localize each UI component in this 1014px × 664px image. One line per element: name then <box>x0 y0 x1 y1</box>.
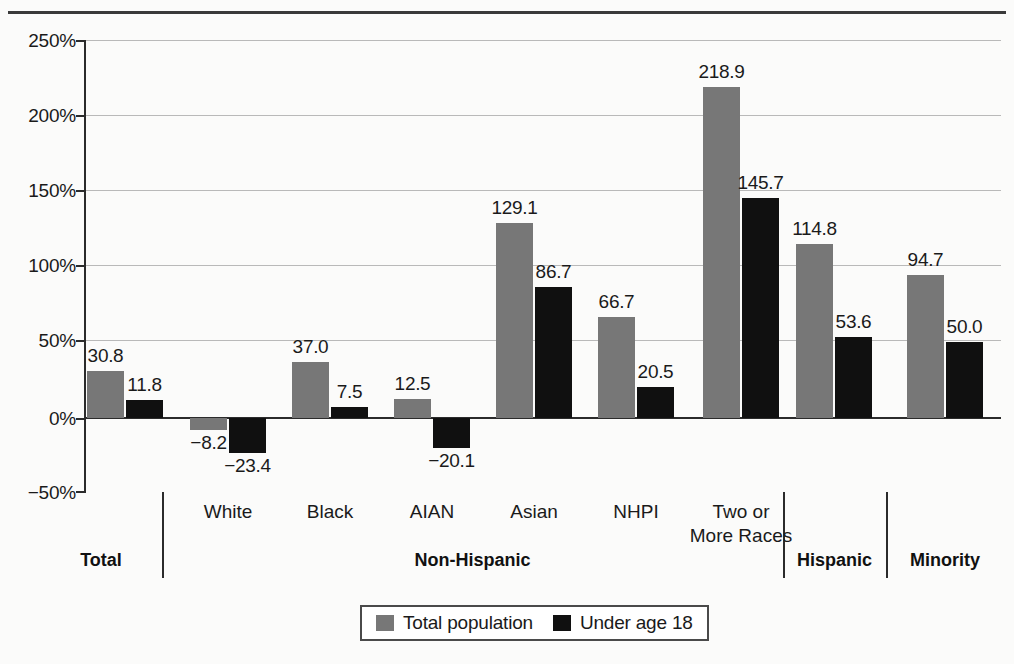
bar-value-label-under-5: 20.5 <box>616 361 696 383</box>
bar-value-label-under-0: 11.8 <box>105 374 185 396</box>
y-axis-tick-200 <box>76 115 86 117</box>
plot-area: 30.811.8−8.2−23.437.07.512.5−20.1129.186… <box>86 40 1001 492</box>
bar-value-label-under-4: 86.7 <box>514 261 594 283</box>
bar-under-5 <box>637 387 674 418</box>
y-axis-tick-50 <box>76 340 86 342</box>
group-label-total: Total <box>40 550 162 571</box>
bar-under-1 <box>229 418 266 453</box>
gridline-250 <box>86 40 1001 41</box>
category-label-line2: More Races <box>661 524 821 548</box>
y-axis-tick-0 <box>76 418 86 420</box>
group-label-non-hispanic: Non-Hispanic <box>162 550 783 571</box>
bar-value-label-total-2: 37.0 <box>271 336 351 358</box>
bar-under-6 <box>742 198 779 418</box>
y-axis-label-200: 200% <box>2 105 76 127</box>
gridline-200 <box>86 115 1001 116</box>
bar-value-label-total-3: 12.5 <box>373 373 453 395</box>
legend-item-total-population[interactable]: Total population <box>376 612 533 634</box>
bar-value-label-under-6: 145.7 <box>721 172 801 194</box>
bar-total-3 <box>394 399 431 418</box>
bar-total-6 <box>703 87 740 418</box>
bar-value-label-total-5: 66.7 <box>577 291 657 313</box>
group-label-hispanic: Hispanic <box>783 550 886 571</box>
bar-under-7 <box>835 337 872 418</box>
bar-total-4 <box>496 223 533 418</box>
legend-swatch-total-population-icon <box>376 615 394 631</box>
bar-value-label-under-1: −23.4 <box>208 455 288 477</box>
bar-value-label-total-7: 114.8 <box>775 218 855 240</box>
bar-under-0 <box>126 400 163 418</box>
header-rule <box>8 11 1006 14</box>
category-label-5: Two orMore Races <box>661 500 821 548</box>
gridline-150 <box>86 190 1001 191</box>
legend-label-total-population: Total population <box>403 612 533 634</box>
chart-legend: Total population Under age 18 <box>360 605 709 641</box>
legend-item-under-age-18[interactable]: Under age 18 <box>553 612 693 634</box>
y-axis-tick-150 <box>76 190 86 192</box>
y-axis-label-100: 100% <box>2 255 76 277</box>
legend-label-under-age-18: Under age 18 <box>580 612 693 634</box>
group-label-minority: Minority <box>886 550 1004 571</box>
y-axis-label-250: 250% <box>2 30 76 52</box>
bar-value-label-under-8: 50.0 <box>925 316 1005 338</box>
category-label-line1: Two or <box>661 500 821 524</box>
y-axis-tick-250 <box>76 40 86 42</box>
bar-value-label-under-3: −20.1 <box>412 450 492 472</box>
bar-under-3 <box>433 418 470 448</box>
bar-under-4 <box>535 287 572 418</box>
bar-value-label-total-4: 129.1 <box>475 197 555 219</box>
bar-under-2 <box>331 407 368 418</box>
bar-value-label-total-0: 30.8 <box>66 345 146 367</box>
chart-page: 250% 200% 150% 100% 50% 0% −50% 30.811.8… <box>0 0 1014 664</box>
bar-value-label-total-8: 94.7 <box>886 249 966 271</box>
legend-swatch-under-age-18-icon <box>553 615 571 631</box>
bar-total-8 <box>907 275 944 418</box>
category-band: WhiteBlackAIANAsianNHPITwo orMore Races … <box>0 492 1014 590</box>
bar-value-label-under-7: 53.6 <box>814 311 894 333</box>
bar-total-1 <box>190 418 227 430</box>
y-axis-label-150: 150% <box>2 180 76 202</box>
y-axis-tick-100 <box>76 265 86 267</box>
bar-under-8 <box>946 342 983 418</box>
y-axis-label-0: 0% <box>2 408 76 430</box>
bar-value-label-total-6: 218.9 <box>682 61 762 83</box>
